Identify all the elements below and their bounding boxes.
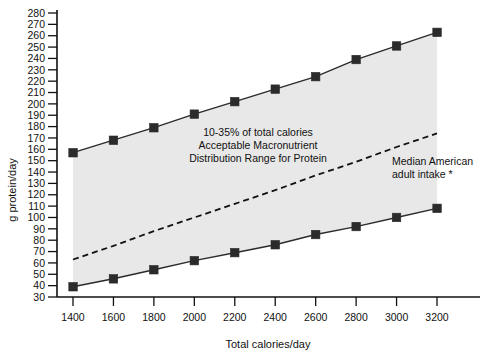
y-tick-label: 70	[33, 245, 45, 257]
y-tick-label: 260	[27, 29, 45, 41]
median-intake-line-1: Median American	[392, 155, 473, 167]
chart-canvas: 3040506070809010011012013014015016017018…	[0, 0, 487, 358]
data-point-marker	[392, 42, 401, 51]
y-tick-labels: 3040506070809010011012013014015016017018…	[27, 7, 45, 303]
y-tick-label: 170	[27, 132, 45, 144]
y-tick-label: 60	[33, 257, 45, 269]
x-tick-label: 2200	[223, 311, 247, 323]
y-tick-label: 130	[27, 177, 45, 189]
data-point-marker	[231, 97, 240, 106]
median-intake-annotation: Median American adult intake *	[392, 155, 473, 180]
data-point-marker	[311, 72, 320, 81]
y-tick-label: 210	[27, 86, 45, 98]
y-tick-marks	[48, 13, 57, 297]
x-tick-label: 2400	[264, 311, 288, 323]
data-point-marker	[392, 213, 401, 222]
x-tick-label: 2600	[304, 311, 328, 323]
amdr-annotation-line-3: Distribution Range for Protein	[189, 152, 327, 164]
x-tick-label: 1800	[142, 311, 166, 323]
data-point-marker	[109, 275, 118, 284]
y-tick-label: 80	[33, 234, 45, 246]
data-point-marker	[352, 55, 361, 64]
y-tick-label: 280	[27, 7, 45, 19]
y-tick-label: 100	[27, 211, 45, 223]
y-tick-label: 90	[33, 223, 45, 235]
x-tick-label: 1400	[61, 311, 85, 323]
y-tick-label: 120	[27, 188, 45, 200]
data-point-marker	[271, 241, 280, 250]
median-intake-line-2: adult intake *	[392, 168, 453, 180]
data-point-marker	[352, 222, 361, 231]
y-tick-label: 50	[33, 268, 45, 280]
y-tick-label: 110	[28, 200, 45, 212]
data-point-marker	[271, 85, 280, 94]
y-tick-label: 40	[33, 279, 45, 291]
data-point-marker	[69, 149, 78, 158]
data-point-marker	[150, 124, 159, 133]
y-tick-label: 230	[27, 64, 45, 76]
data-point-marker	[69, 283, 78, 292]
data-point-marker	[231, 248, 240, 257]
y-tick-label: 150	[27, 154, 45, 166]
y-tick-label: 240	[27, 52, 45, 64]
x-tick-label: 2000	[183, 311, 207, 323]
x-tick-label: 3200	[425, 311, 449, 323]
amdr-annotation-line-2: Acceptable Macronutrient	[198, 139, 317, 151]
y-tick-label: 180	[27, 120, 45, 132]
data-point-marker	[109, 136, 118, 145]
y-tick-label: 270	[27, 18, 45, 30]
y-tick-label: 190	[27, 109, 45, 121]
x-tick-marks	[73, 297, 437, 306]
y-tick-label: 250	[27, 41, 45, 53]
data-point-marker	[190, 256, 199, 265]
data-point-marker	[150, 266, 159, 275]
x-tick-labels: 1400160018002000220024002600280030003200	[61, 311, 449, 323]
y-tick-label: 30	[33, 291, 45, 303]
protein-amdr-chart: 3040506070809010011012013014015016017018…	[0, 0, 487, 358]
data-point-marker	[311, 230, 320, 239]
data-point-marker	[190, 110, 199, 119]
x-tick-label: 1600	[102, 311, 126, 323]
y-tick-label: 220	[27, 75, 45, 87]
y-tick-label: 160	[27, 143, 45, 155]
x-tick-label: 3000	[385, 311, 409, 323]
x-tick-label: 2800	[344, 311, 368, 323]
amdr-band-annotation: 10-35% of total calories Acceptable Macr…	[189, 126, 327, 164]
data-point-marker	[433, 28, 442, 36]
data-point-marker	[433, 204, 442, 213]
y-tick-label: 200	[27, 98, 45, 110]
y-axis-title: g protein/day	[6, 158, 18, 222]
x-axis-title: Total calories/day	[226, 338, 311, 350]
y-tick-label: 140	[27, 166, 45, 178]
amdr-annotation-line-1: 10-35% of total calories	[203, 126, 313, 138]
